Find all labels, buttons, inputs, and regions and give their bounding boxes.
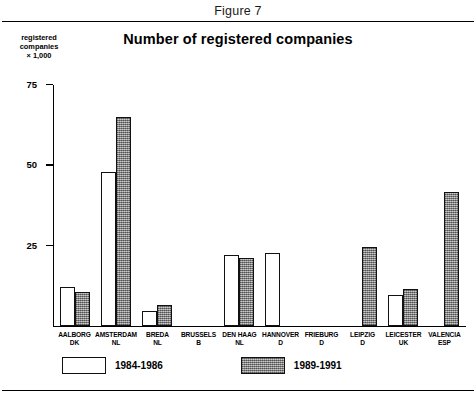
bar-aalborg-1984-1986 <box>60 287 75 325</box>
bar-group-hannover <box>260 85 301 326</box>
x-axis-label-country: D <box>260 339 301 347</box>
legend-label-series-1: 1989-1991 <box>294 360 342 371</box>
x-axis-label-city: BREDA <box>137 331 178 339</box>
x-axis-label-aalborg: AALBORGDK <box>54 331 95 348</box>
y-axis-label-line-1: registered <box>6 33 72 42</box>
x-axis-label-leicester: LEICESTERUK <box>383 331 424 348</box>
legend-label-series-0: 1984-1986 <box>115 360 163 371</box>
x-axis-label-country: B <box>178 339 219 347</box>
x-axis-line <box>53 326 466 327</box>
legend-swatch-series-0 <box>62 357 106 374</box>
x-axis-label-brussels: BRUSSELSB <box>178 331 219 348</box>
x-axis-labels: AALBORGDKAMSTERDAMNLBREDANLBRUSSELSBDEN … <box>54 331 465 348</box>
x-axis-label-country: NL <box>219 339 260 347</box>
x-axis-label-country: D <box>342 339 383 347</box>
x-axis-label-valencia: VALENCIAESP <box>424 331 465 348</box>
x-axis-label-country: DK <box>54 339 95 347</box>
x-axis-label-city: DEN HAAG <box>219 331 260 339</box>
bar-breda-1984-1986 <box>142 311 157 325</box>
bar-breda-1989-1991 <box>157 305 172 326</box>
y-tick-25: 25 <box>46 245 53 246</box>
bar-leipzig-1989-1991 <box>362 247 377 326</box>
legend-item-series-1: 1989-1991 <box>241 357 342 374</box>
y-axis-label: registered companies × 1,000 <box>6 33 72 60</box>
bar-group-amsterdam <box>95 85 136 326</box>
bar-aalborg-1989-1991 <box>75 292 90 326</box>
plot-area: 255075 <box>53 85 465 327</box>
x-axis-label-leipzig: LEIPZIGD <box>342 331 383 348</box>
bar-group-brussels <box>178 85 219 326</box>
bar-amsterdam-1984-1986 <box>101 172 116 326</box>
x-axis-label-country: NL <box>95 339 137 347</box>
figure-caption: Figure 7 <box>0 0 476 18</box>
y-tick-label-50: 50 <box>26 159 37 170</box>
chart-legend: 1984-1986 1989-1991 <box>62 357 342 374</box>
bar-den-haag-1984-1986 <box>224 255 239 326</box>
bar-leicester-1989-1991 <box>403 289 418 326</box>
bar-group-frieburg <box>301 85 342 326</box>
bar-group-breda <box>137 85 178 326</box>
x-axis-label-country: D <box>301 339 342 347</box>
bottom-divider <box>2 390 474 391</box>
legend-item-series-0: 1984-1986 <box>62 357 163 374</box>
x-axis-label-country: ESP <box>424 339 465 347</box>
bar-group-valencia <box>424 85 465 326</box>
x-axis-label-city: HANNOVER <box>260 331 301 339</box>
x-axis-label-city: LEICESTER <box>383 331 424 339</box>
bar-group-den-haag <box>219 85 260 326</box>
bar-group-aalborg <box>54 85 95 326</box>
top-divider <box>2 21 474 22</box>
bar-group-leipzig <box>342 85 383 326</box>
x-axis-label-amsterdam: AMSTERDAMNL <box>95 331 137 348</box>
bar-hannover-1984-1986 <box>265 253 280 325</box>
x-axis-label-city: LEIPZIG <box>342 331 383 339</box>
bar-groups <box>54 85 465 326</box>
bar-valencia-1989-1991 <box>444 192 459 325</box>
x-axis-label-city: AMSTERDAM <box>95 331 137 339</box>
y-tick-label-25: 25 <box>26 240 37 251</box>
x-axis-label-den-haag: DEN HAAGNL <box>219 331 260 348</box>
x-axis-label-frieburg: FRIEBURGD <box>301 331 342 348</box>
y-tick-label-75: 75 <box>26 78 37 89</box>
x-axis-label-city: VALENCIA <box>424 331 465 339</box>
x-axis-label-city: FRIEBURG <box>301 331 342 339</box>
x-axis-label-city: AALBORG <box>54 331 95 339</box>
y-tick-50: 50 <box>46 164 53 165</box>
x-axis-label-city: BRUSSELS <box>178 331 219 339</box>
y-axis-label-line-3: × 1,000 <box>6 51 72 60</box>
legend-swatch-series-1 <box>241 357 285 374</box>
x-axis-label-country: NL <box>137 339 178 347</box>
x-axis-label-breda: BREDANL <box>137 331 178 348</box>
x-axis-label-hannover: HANNOVERD <box>260 331 301 348</box>
bar-group-leicester <box>383 85 424 326</box>
x-axis-label-country: UK <box>383 339 424 347</box>
y-tick-75: 75 <box>46 84 53 85</box>
bar-den-haag-1989-1991 <box>239 258 254 325</box>
bar-leicester-1984-1986 <box>388 295 403 325</box>
bar-amsterdam-1989-1991 <box>116 117 131 326</box>
y-axis-label-line-2: companies <box>6 42 72 51</box>
